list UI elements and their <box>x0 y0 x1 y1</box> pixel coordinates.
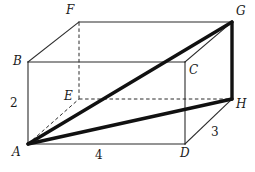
thick-edge-group <box>28 22 232 144</box>
vertex-label-c: C <box>189 64 198 76</box>
vertex-label-g: G <box>236 5 246 17</box>
geometry-figure: ABCDEFGH 243 <box>0 0 255 172</box>
diagonal-A-G <box>28 22 232 144</box>
vertex-label-f: F <box>66 4 74 16</box>
vertex-label-e: E <box>64 90 73 102</box>
prism-drawing <box>0 0 255 172</box>
vertex-label-a: A <box>12 146 21 158</box>
dimension-label-width: 4 <box>95 149 103 161</box>
vertex-label-d: D <box>180 147 190 159</box>
segment-A-H <box>28 99 232 144</box>
vertex-label-h: H <box>236 98 246 110</box>
dimension-label-depth: 3 <box>211 126 219 138</box>
vertex-label-b: B <box>13 55 22 67</box>
edge-B-F <box>28 22 79 62</box>
dimension-label-height: 2 <box>10 97 18 109</box>
